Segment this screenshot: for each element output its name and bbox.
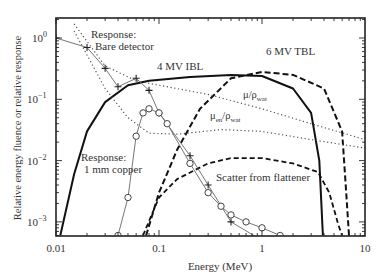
circle-marker	[125, 194, 131, 200]
y-tick-label: 10−2	[27, 153, 47, 167]
annotation-copper: Response:	[81, 151, 126, 163]
plus-marker	[227, 218, 234, 225]
circle-marker	[164, 120, 170, 126]
annotation-bare-detector: Bare detector	[95, 40, 154, 52]
x-tick-label: 0.01	[46, 242, 65, 254]
annotation-muen-rho: μen/ρwat	[210, 110, 241, 124]
circle-marker	[218, 203, 224, 209]
circle-marker	[205, 189, 211, 195]
annotation-scatter: Scatter from flattener	[216, 171, 310, 183]
circle-marker	[140, 110, 146, 116]
x-tick-label: 1	[259, 242, 265, 254]
circle-marker	[228, 212, 234, 218]
annotation-6mv-tbl: 6 MV TBL	[266, 45, 315, 57]
y-tick-labels: 100 10−1 10−2 10−3	[27, 30, 47, 228]
y-axis-label: Relative energy fluence or relative resp…	[12, 35, 23, 220]
circle-marker	[243, 219, 249, 225]
circle-marker	[187, 160, 193, 166]
circle-marker	[133, 133, 139, 139]
circle-marker	[146, 106, 152, 112]
annotation-copper: 1 mm copper	[84, 163, 142, 175]
series-line	[143, 158, 342, 235]
plus-marker	[205, 181, 212, 188]
x-tick-label: 10	[360, 242, 372, 254]
annotation-mu-rho: μ/ρwat	[243, 89, 267, 103]
annotation-bare-detector: Response:	[91, 28, 136, 40]
y-tick-label: 10−1	[27, 91, 47, 105]
x-axis-label: Energy (MeV)	[188, 260, 253, 273]
circle-marker	[156, 110, 162, 116]
chart: 0.01 0.1 1 10 100 10−1 10−2 10−3 Relativ…	[0, 0, 386, 278]
plus-marker	[115, 83, 122, 90]
y-tick-label: 10−3	[27, 214, 47, 228]
y-tick-label: 100	[32, 30, 47, 44]
x-tick-label: 0.1	[152, 242, 166, 254]
plot-area	[53, 24, 366, 244]
annotation-4mv-ibl: 4 MV IBL	[157, 60, 204, 72]
plus-marker	[187, 152, 194, 159]
